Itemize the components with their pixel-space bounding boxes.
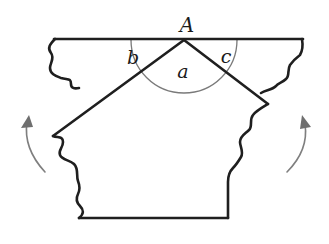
vertex-label-a: A xyxy=(178,13,194,37)
angle-label-a: a xyxy=(177,60,188,82)
diagram-canvas: A b a c xyxy=(0,0,329,244)
angle-label-b: b xyxy=(127,46,139,68)
folded-triangle-diagram: A b a c xyxy=(0,0,329,244)
angle-label-c: c xyxy=(221,45,232,67)
right-rotate-arrow-icon xyxy=(287,115,311,172)
left-lower-torn-edge xyxy=(53,136,83,218)
left-upper-torn-edge xyxy=(49,39,79,88)
left-rotate-arrow-icon xyxy=(21,115,45,172)
right-lower-torn-edge xyxy=(228,104,268,218)
right-upper-torn-edge xyxy=(261,39,303,93)
